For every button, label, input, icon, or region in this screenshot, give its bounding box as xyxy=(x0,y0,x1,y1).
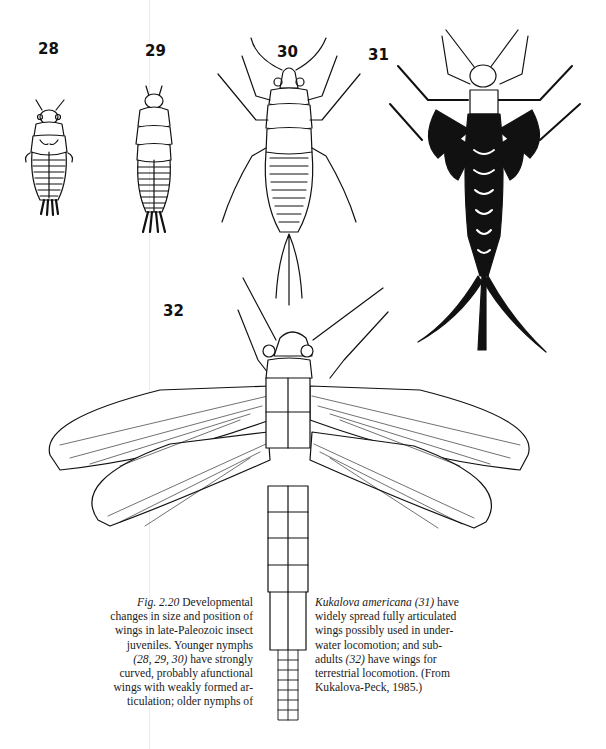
caption-right-column: Kukalova americana (31) have widely spre… xyxy=(315,596,490,695)
caption-text: have wings for xyxy=(365,653,437,666)
caption-line: changes in size and position of xyxy=(96,610,253,624)
caption-line: widely spread fully articulated xyxy=(315,610,490,624)
caption-citation: Kukalova-Peck, 1985.) xyxy=(315,681,490,695)
caption-text: have xyxy=(434,596,459,609)
nymph-29-drawing xyxy=(136,86,172,232)
caption-line: ticulation; older nymphs of xyxy=(96,695,253,709)
nymph-28-drawing xyxy=(26,100,73,215)
nymph-31-drawing xyxy=(390,30,580,352)
caption-line: terrestrial locomotion. (From xyxy=(315,667,490,681)
caption-text: Developmental xyxy=(179,596,253,609)
caption-line: curved, probably afunctional xyxy=(96,667,253,681)
species-name: Kukalova americana (31) xyxy=(315,596,434,609)
caption-left-column: Fig. 2.20 Developmental changes in size … xyxy=(96,596,253,710)
panel-reference: (28, 29, 30) xyxy=(133,653,187,666)
panel-reference: (32) xyxy=(346,653,365,666)
nymph-30-drawing xyxy=(218,38,360,305)
caption-line: water locomotion; and sub- xyxy=(315,639,490,653)
figure-page: 28 29 30 31 32 xyxy=(0,0,606,749)
caption-text: have strongly xyxy=(187,653,253,666)
figure-number: Fig. 2.20 xyxy=(137,596,179,609)
caption-line: wings possibly used in under- xyxy=(315,624,490,638)
caption-line: juveniles. Younger nymphs xyxy=(96,639,253,653)
caption-line: wings with weakly formed ar- xyxy=(96,681,253,695)
insect-illustrations xyxy=(0,0,606,749)
caption-line: wings in late-Paleozoic insect xyxy=(96,624,253,638)
caption-text: adults xyxy=(315,653,346,666)
